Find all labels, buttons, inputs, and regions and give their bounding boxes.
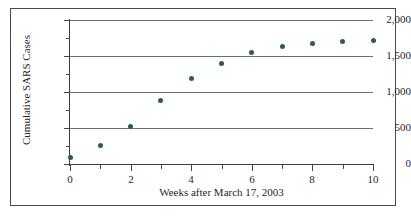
data-point bbox=[98, 143, 103, 148]
data-point bbox=[249, 50, 254, 55]
y-tick-mark-minor bbox=[66, 146, 70, 147]
x-tick-label: 8 bbox=[297, 174, 327, 185]
gridline bbox=[70, 128, 373, 129]
y-tick-mark-minor bbox=[66, 74, 70, 75]
x-tick-label: 4 bbox=[176, 174, 206, 185]
data-point bbox=[219, 61, 224, 66]
y-tick-label: 1,000 bbox=[349, 86, 411, 97]
x-tick-mark-minor bbox=[343, 165, 344, 169]
y-axis-title: Cumulative SARS Cases bbox=[20, 20, 32, 160]
gridline bbox=[70, 92, 373, 93]
x-axis-title: Weeks after March 17, 2003 bbox=[70, 186, 373, 198]
y-tick-mark-minor bbox=[66, 38, 70, 39]
x-tick-mark bbox=[191, 165, 192, 171]
data-point bbox=[68, 155, 73, 160]
x-tick-mark bbox=[70, 165, 71, 171]
data-point bbox=[340, 39, 345, 44]
x-tick-mark-minor bbox=[282, 165, 283, 169]
sars-cumulative-cases-chart: 05001,0001,5002,000 0246810 Weeks after … bbox=[0, 0, 411, 220]
y-tick-label: 1,500 bbox=[349, 50, 411, 61]
data-point bbox=[280, 44, 285, 49]
gridline bbox=[70, 56, 373, 57]
x-tick-mark-minor bbox=[222, 165, 223, 169]
gridline bbox=[70, 20, 373, 21]
x-tick-mark-minor bbox=[161, 165, 162, 169]
x-tick-label: 6 bbox=[237, 174, 267, 185]
x-tick-mark bbox=[312, 165, 313, 171]
x-tick-mark-minor bbox=[100, 165, 101, 169]
x-tick-label: 2 bbox=[116, 174, 146, 185]
x-tick-mark bbox=[252, 165, 253, 171]
y-tick-mark bbox=[64, 56, 70, 57]
y-tick-label: 0 bbox=[349, 158, 411, 169]
x-tick-mark bbox=[373, 165, 374, 171]
x-tick-label: 0 bbox=[55, 174, 85, 185]
data-point bbox=[310, 41, 315, 46]
y-tick-mark bbox=[64, 128, 70, 129]
x-tick-mark bbox=[131, 165, 132, 171]
y-tick-label: 2,000 bbox=[349, 14, 411, 25]
y-tick-mark bbox=[64, 20, 70, 21]
data-point bbox=[189, 76, 194, 81]
y-tick-mark bbox=[64, 92, 70, 93]
y-tick-label: 500 bbox=[349, 122, 411, 133]
x-tick-label: 10 bbox=[358, 174, 388, 185]
data-point bbox=[371, 38, 376, 43]
y-tick-mark-minor bbox=[66, 110, 70, 111]
